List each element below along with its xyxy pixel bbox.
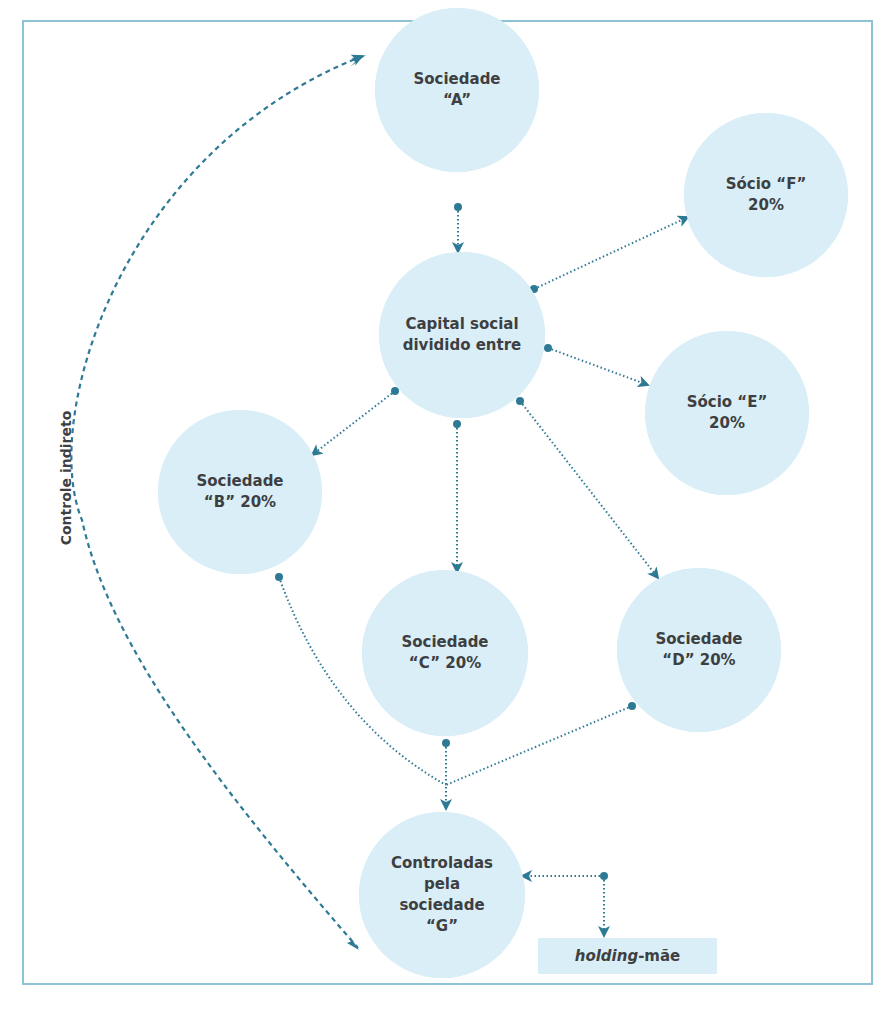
node-controladas-g: Controladas pela sociedade “G” — [359, 812, 525, 978]
arrow-capital-to-e — [548, 348, 648, 385]
node-a-line1: Sociedade — [413, 69, 500, 90]
node-f-line1: Sócio “F” — [726, 174, 807, 195]
node-socio-f: Sócio “F” 20% — [684, 113, 848, 277]
arrowhead-bottom-icon — [347, 935, 359, 950]
node-b-line2: “B” 20% — [204, 492, 276, 513]
node-sociedade-d: Sociedade “D” 20% — [617, 568, 781, 732]
node-a-line2: “A” — [443, 90, 471, 111]
node-g-line3: sociedade — [399, 895, 484, 916]
node-d-line2: “D” 20% — [662, 650, 735, 671]
node-sociedade-c: Sociedade “C” 20% — [362, 570, 528, 736]
arrow-capital-to-f — [534, 217, 688, 289]
node-g-line2: pela — [424, 874, 460, 895]
holding-mae-box: holding-mãe — [538, 938, 717, 974]
holding-rest: -mãe — [638, 947, 680, 965]
node-g-line1: Controladas — [391, 853, 493, 874]
node-e-line1: Sócio “E” — [687, 392, 768, 413]
node-sociedade-a: Sociedade “A” — [375, 8, 539, 172]
controle-indireto-label: Controle indireto — [58, 408, 74, 548]
node-socio-e: Sócio “E” 20% — [645, 331, 809, 495]
node-capital-social: Capital social dividido entre — [379, 252, 545, 418]
node-d-line1: Sociedade — [655, 629, 742, 650]
node-g-line4: “G” — [426, 916, 458, 937]
node-c-line1: Sociedade — [401, 632, 488, 653]
arrow-capital-to-d — [520, 401, 658, 578]
node-f-line2: 20% — [748, 195, 784, 216]
node-capital-line2: dividido entre — [403, 335, 522, 356]
node-sociedade-b: Sociedade “B” 20% — [158, 410, 322, 574]
arrow-capital-to-b — [312, 391, 395, 455]
node-b-line1: Sociedade — [196, 471, 283, 492]
node-capital-line1: Capital social — [405, 314, 518, 335]
holding-italic: holding — [575, 947, 638, 965]
node-e-line2: 20% — [709, 413, 745, 434]
node-c-line2: “C” 20% — [409, 653, 481, 674]
